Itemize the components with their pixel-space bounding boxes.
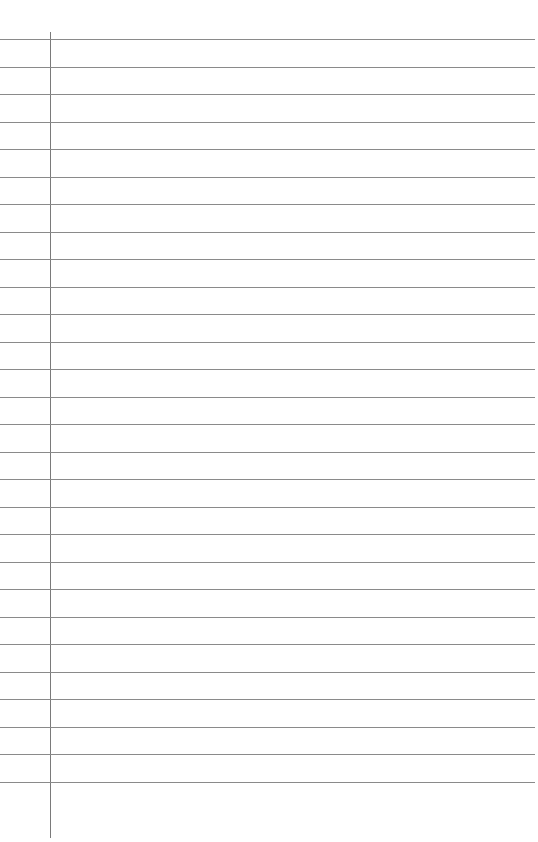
ruled-line (0, 177, 535, 178)
ruled-line (0, 452, 535, 453)
ruled-line (0, 589, 535, 590)
ruled-line (0, 397, 535, 398)
ruled-line (0, 342, 535, 343)
ruled-line (0, 369, 535, 370)
ruled-line (0, 424, 535, 425)
ruled-line (0, 617, 535, 618)
ruled-line (0, 204, 535, 205)
ruled-line (0, 699, 535, 700)
ruled-line (0, 727, 535, 728)
ruled-line (0, 67, 535, 68)
ruled-line (0, 314, 535, 315)
ruled-line (0, 562, 535, 563)
ruled-line (0, 94, 535, 95)
ruled-line (0, 534, 535, 535)
ruled-line (0, 39, 535, 40)
ruled-line (0, 149, 535, 150)
margin-line (50, 32, 51, 838)
ruled-line (0, 259, 535, 260)
ruled-line (0, 232, 535, 233)
ruled-line (0, 122, 535, 123)
ruled-line (0, 672, 535, 673)
ruled-line (0, 754, 535, 755)
lined-paper-page (0, 0, 538, 842)
ruled-line (0, 644, 535, 645)
ruled-line (0, 479, 535, 480)
ruled-line (0, 782, 535, 783)
ruled-line (0, 287, 535, 288)
ruled-line (0, 507, 535, 508)
